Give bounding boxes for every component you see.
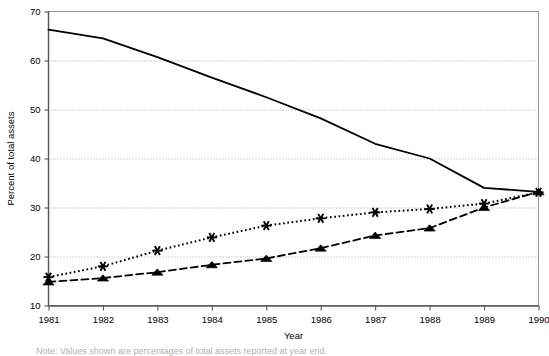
data-marker-asterisk-core [210,236,213,239]
y-axis-tick-label: 50 [30,104,41,115]
x-axis-tick-label: 1984 [202,314,223,325]
y-axis-tick-label: 20 [30,251,41,262]
y-axis: 10203040506070 [30,6,49,311]
data-marker-asterisk-core [156,249,159,252]
y-axis-title: Percent of total assets [5,111,16,205]
data-marker-asterisk-core [374,211,377,214]
plot-frame [49,12,539,306]
data-marker-asterisk-core [319,217,322,220]
x-axis-tick-label: 1988 [420,314,441,325]
chart-footnote: Note: Values shown are percentages of to… [36,346,327,356]
data-marker-asterisk-core [101,265,104,268]
x-axis-tick-label: 1983 [147,314,168,325]
x-axis-tick-label: 1989 [474,314,495,325]
x-axis-tick-label: 1982 [93,314,114,325]
x-axis-tick-label: 1986 [311,314,332,325]
data-marker-asterisk-core [428,207,431,210]
x-axis: 1981198219831984198519861987198819891990 [38,306,549,325]
x-axis-title: Year [284,330,303,341]
y-axis-tick-label: 70 [30,6,41,17]
y-axis-tick-label: 40 [30,153,41,164]
x-axis-tick-label: 1981 [38,314,59,325]
y-axis-tick-label: 10 [30,300,41,311]
y-axis-tick-label: 30 [30,202,41,213]
x-axis-tick-label: 1987 [365,314,386,325]
x-axis-tick-label: 1990 [528,314,549,325]
data-marker-asterisk-core [265,224,268,227]
y-axis-tick-label: 60 [30,55,41,66]
x-axis-tick-label: 1985 [256,314,277,325]
